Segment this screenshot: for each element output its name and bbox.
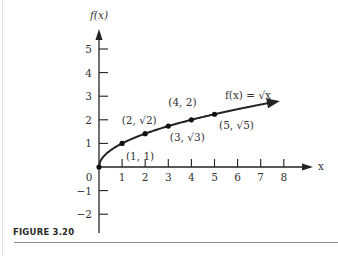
data-point — [143, 131, 148, 136]
x-tick-label: 8 — [280, 171, 287, 183]
y-tick-label: 5 — [85, 43, 92, 55]
point-label: (5, √5) — [219, 119, 254, 131]
y-tick-label: 2 — [85, 114, 92, 126]
data-point — [166, 124, 171, 129]
x-axis-arrow-icon — [302, 164, 313, 171]
data-point — [96, 164, 101, 169]
bottom-rule — [14, 242, 338, 243]
y-tick-label: −2 — [77, 208, 92, 220]
point-label: (4, 2) — [168, 96, 196, 108]
x-tick-label: 1 — [119, 171, 126, 183]
x-tick-label: 6 — [234, 171, 241, 183]
y-tick-label: 4 — [85, 67, 92, 79]
y-tick-label: 1 — [85, 137, 92, 149]
data-points: (1, 1)(2, √2)(3, √3)(4, 2)(5, √5) — [96, 96, 254, 170]
origin-label: 0 — [86, 171, 93, 183]
y-axis-arrow-icon — [96, 29, 103, 40]
y-tick-label: 3 — [85, 90, 92, 102]
x-ticks: 12345678 — [119, 159, 287, 183]
function-label: f(x) = √x — [225, 89, 271, 101]
x-tick-label: 3 — [165, 171, 172, 183]
y-ticks: −2−112345 — [77, 43, 108, 220]
y-tick-label: −1 — [77, 185, 92, 197]
x-axis-label: x — [318, 160, 324, 172]
x-tick-label: 7 — [257, 171, 264, 183]
x-tick-label: 5 — [211, 171, 218, 183]
point-label: (3, √3) — [170, 131, 205, 143]
y-axis-label: f(x) — [89, 9, 108, 21]
x-tick-label: 2 — [142, 171, 149, 183]
data-point — [212, 112, 217, 117]
x-tick-label: 4 — [188, 171, 195, 183]
point-label: (2, √2) — [122, 114, 157, 126]
point-label: (1, 1) — [126, 150, 154, 162]
data-point — [120, 141, 125, 146]
sqrt-function-graph: 12345678 −2−112345 f(x) x 0 (1, 1)(2, √2… — [0, 0, 338, 256]
data-point — [189, 117, 194, 122]
figure-caption: FIGURE 3.20 — [13, 227, 74, 237]
